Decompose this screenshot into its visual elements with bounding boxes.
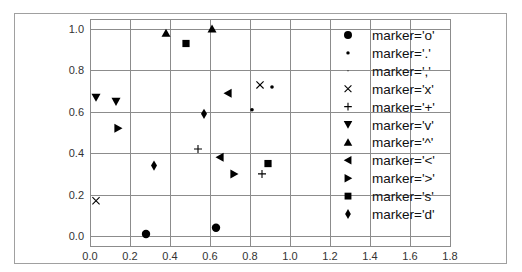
marker-square-icon bbox=[345, 193, 352, 200]
x-tick-label: 0.2 bbox=[122, 250, 137, 262]
legend-label: marker='s' bbox=[372, 189, 434, 204]
legend-label: marker='o' bbox=[372, 28, 435, 43]
marker-circle-icon bbox=[142, 230, 150, 238]
x-tick-label: 1.4 bbox=[362, 250, 377, 262]
marker-square-icon bbox=[264, 160, 271, 167]
marker-pixel-icon bbox=[348, 70, 349, 71]
x-tick-label: 1.2 bbox=[322, 250, 337, 262]
x-tick-label: 0.0 bbox=[82, 250, 97, 262]
chart-canvas: 0.00.20.40.60.81.01.21.41.61.8 0.00.20.4… bbox=[0, 0, 522, 272]
y-tick-label: 0.4 bbox=[69, 147, 84, 159]
y-tick-label: 1.0 bbox=[69, 23, 84, 35]
legend-label: marker=',' bbox=[372, 64, 431, 79]
y-tick-label: 0.2 bbox=[69, 189, 84, 201]
x-tick-label: 1.8 bbox=[442, 250, 457, 262]
y-tick-label: 0.0 bbox=[69, 230, 84, 242]
x-tick-label: 0.4 bbox=[162, 250, 177, 262]
x-tick-label: 1.0 bbox=[282, 250, 297, 262]
marker-point-icon bbox=[270, 85, 274, 89]
scatter-chart: 0.00.20.40.60.81.01.21.41.61.8 0.00.20.4… bbox=[0, 0, 522, 272]
marker-point-icon bbox=[346, 51, 349, 54]
marker-circle-icon bbox=[344, 31, 352, 39]
x-tick-label: 0.8 bbox=[242, 250, 257, 262]
y-tick-label: 0.8 bbox=[69, 64, 84, 76]
x-tick-label: 1.6 bbox=[402, 250, 417, 262]
marker-point-icon bbox=[250, 108, 254, 112]
legend-label: marker='<' bbox=[372, 153, 435, 168]
x-tick-label: 0.6 bbox=[202, 250, 217, 262]
legend-label: marker='d' bbox=[372, 207, 435, 222]
legend-label: marker='>' bbox=[372, 171, 435, 186]
y-tick-label: 0.6 bbox=[69, 106, 84, 118]
legend-label: marker='+' bbox=[372, 100, 435, 115]
legend-label: marker='x' bbox=[372, 82, 434, 97]
legend-label: marker='^' bbox=[372, 135, 433, 150]
marker-circle-icon bbox=[212, 224, 220, 232]
legend-label: marker='.' bbox=[372, 46, 431, 61]
legend-label: marker='v' bbox=[372, 118, 434, 133]
marker-square-icon bbox=[182, 40, 189, 47]
